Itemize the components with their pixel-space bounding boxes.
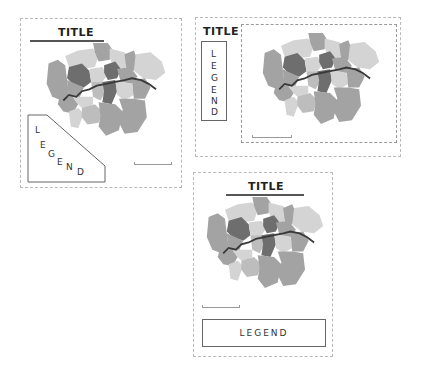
legend-letter: L [35,125,40,135]
title-underline [226,194,304,196]
legend-letter: D [211,107,218,117]
title-underline [30,40,104,42]
legend-letter: E [211,61,217,71]
map-title: TITLE [58,26,94,39]
legend-letter: N [66,162,73,172]
scale-bar [134,162,172,165]
legend-letter: E [40,140,46,150]
legend-letter: G [211,73,218,83]
legend-box: LEGEND [202,319,326,347]
legend-letter: G [48,149,55,159]
layout-panel-2: TITLE L E G E N D [195,17,401,157]
legend-letter: E [211,85,217,95]
map-title: TITLE [203,25,239,38]
scale-bar [202,305,240,308]
london-map [257,33,385,133]
layout-panel-1: TITLE L E G E N D [20,18,182,188]
legend-letter: D [77,167,84,177]
map-frame [241,24,397,143]
london-map [200,197,330,297]
legend-letter: L [211,49,216,59]
layout-panel-3: TITLE LEGEND [193,172,333,357]
map-title: TITLE [248,180,284,193]
legend-letter: E [57,157,63,167]
legend-label: LEGEND [203,328,325,338]
scale-bar [252,135,292,138]
legend-letter: N [211,96,218,106]
